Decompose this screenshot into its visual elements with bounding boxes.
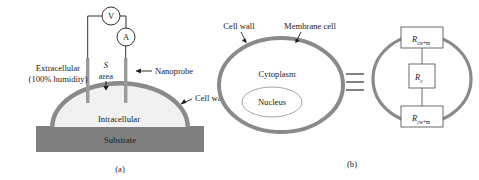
cell-wall-leader-b-icon <box>241 32 247 43</box>
substrate-label: Substrate <box>104 135 136 145</box>
nucleus-label: Nucleus <box>258 97 287 107</box>
cytoplasm-label: Cytoplasm <box>258 69 296 79</box>
cell-wall-leader-a-icon <box>181 99 192 104</box>
resistor-top-subscript: cw+m <box>417 40 430 46</box>
nanoprobe-label: Nanoprobe <box>155 66 193 76</box>
panel-b-caption: (b) <box>347 159 357 169</box>
figure-container: Substrate Intracellular V A <box>0 0 479 180</box>
extracellular-label-line1: Extracellular <box>36 63 81 73</box>
panel-a: Substrate Intracellular V A <box>29 7 227 174</box>
nanoprobe-leader-icon <box>136 69 152 74</box>
ammeter-symbol: A <box>123 32 130 42</box>
resistor-middle: Rc <box>409 64 435 88</box>
cell-wall-label-b: Cell wall <box>223 21 255 31</box>
equivalence-symbol <box>346 74 364 90</box>
voltmeter: V <box>102 7 120 25</box>
panel-a-caption: (a) <box>115 164 125 174</box>
ammeter: A <box>117 28 135 46</box>
extracellular-label-line2: (100% humidity) <box>29 74 88 84</box>
panel-b: Cytoplasm Nucleus Cell wall Membrane cel… <box>219 21 471 169</box>
area-symbol-label: S <box>104 60 109 70</box>
intracellular-label: Intracellular <box>98 114 140 124</box>
cell-outline <box>219 38 343 132</box>
area-word-label: area <box>99 71 113 81</box>
voltmeter-symbol: V <box>108 11 115 21</box>
resistor-top: Rcw+m <box>401 27 443 48</box>
resistor-bottom: Rcw+m <box>401 106 443 127</box>
resistor-bottom-subscript: cw+m <box>417 119 430 125</box>
nanoprobe-right <box>124 58 127 103</box>
membrane-cell-label: Membrane cell <box>284 21 336 31</box>
